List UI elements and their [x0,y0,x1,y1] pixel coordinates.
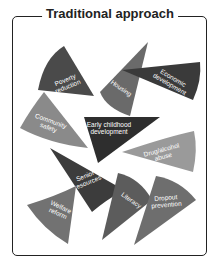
wedge-label: Early childhooddevelopment [87,121,132,136]
wedge-welfare-reform: Welfarereform [27,186,76,244]
wedge-housing: Housing [100,42,148,116]
wedge-community-safety: Communitysafety [20,92,88,148]
wedge-dropout-prevention: Dropoutprevention [134,176,196,245]
wedge-diagram: Povertyreduction Housing Economicdevelop… [0,0,220,269]
wedge-drug-alcohol-abuse: Drug/alcoholabuse [122,131,196,172]
wedge-poverty-reduction: Povertyreduction [38,46,94,96]
